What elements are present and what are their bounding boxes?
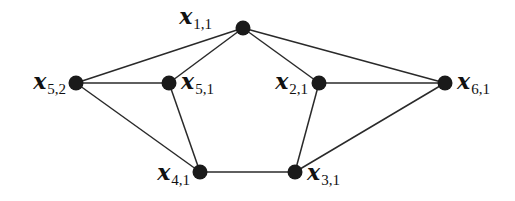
- graph-diagram: x1,1x5,2x5,1x2,1x6,1x4,1x3,1: [0, 0, 515, 201]
- node-x51: [162, 76, 177, 91]
- label-subscript: 3,1: [321, 172, 340, 188]
- label-subscript: 4,1: [171, 172, 190, 188]
- label-variable: x: [306, 159, 321, 185]
- node-label-x52: x5,2: [32, 68, 66, 97]
- label-variable: x: [178, 3, 193, 29]
- label-variable: x: [274, 68, 289, 94]
- label-variable: x: [180, 68, 195, 94]
- node-x11: [236, 21, 251, 36]
- node-label-x21: x2,1: [274, 68, 308, 97]
- label-subscript: 1,1: [193, 16, 212, 32]
- edge-x11-x61: [243, 28, 445, 83]
- label-subscript: 2,1: [289, 81, 308, 97]
- label-subscript: 5,1: [195, 81, 214, 97]
- labels: x1,1x5,2x5,1x2,1x6,1x4,1x3,1: [32, 3, 490, 188]
- node-label-x61: x6,1: [456, 68, 490, 97]
- label-variable: x: [32, 68, 47, 94]
- node-x21: [312, 76, 327, 91]
- node-x61: [438, 76, 453, 91]
- label-variable: x: [156, 159, 171, 185]
- node-x31: [288, 165, 303, 180]
- label-variable: x: [456, 68, 471, 94]
- edges: [76, 28, 445, 172]
- label-subscript: 6,1: [471, 81, 490, 97]
- nodes: [69, 21, 453, 180]
- node-label-x31: x3,1: [306, 159, 340, 188]
- label-subscript: 5,2: [47, 81, 66, 97]
- node-x41: [193, 165, 208, 180]
- node-label-x11: x1,1: [178, 3, 212, 32]
- edge-x52-x41: [76, 83, 200, 172]
- node-label-x51: x5,1: [180, 68, 214, 97]
- node-x52: [69, 76, 84, 91]
- edge-x11-x52: [76, 28, 243, 83]
- node-label-x41: x4,1: [156, 159, 190, 188]
